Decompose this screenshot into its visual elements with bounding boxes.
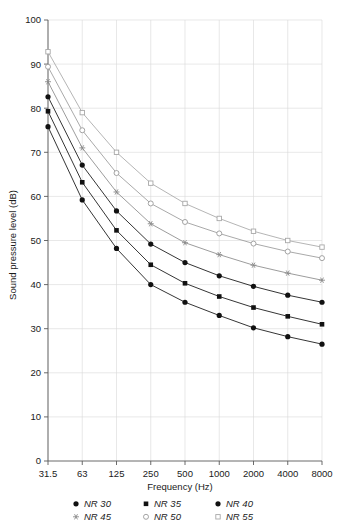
data-point-marker xyxy=(114,150,118,154)
data-point-marker xyxy=(45,124,50,129)
data-point-marker xyxy=(251,229,255,233)
y-tick-label: 90 xyxy=(30,59,41,70)
legend-item-nr-30: NR 30 xyxy=(73,498,111,509)
data-point-marker xyxy=(114,171,119,176)
data-point-marker xyxy=(285,249,290,254)
data-point-marker xyxy=(182,260,187,265)
data-point-marker xyxy=(144,514,149,519)
data-point-marker xyxy=(148,262,153,267)
data-point-marker xyxy=(286,238,290,242)
data-point-marker xyxy=(251,305,256,310)
data-point-marker xyxy=(216,515,220,519)
y-tick-label: 50 xyxy=(30,235,41,246)
legend-item-label: NR 50 xyxy=(154,511,182,522)
y-tick-label: 100 xyxy=(25,14,41,25)
data-point-marker xyxy=(148,201,153,206)
data-point-marker xyxy=(251,241,256,246)
legend-item-nr-35: NR 35 xyxy=(144,498,182,509)
data-point-marker xyxy=(217,231,222,236)
nr-curves-figure: 0102030405060708090100 31.56312525050010… xyxy=(0,0,338,531)
legend-item-nr-55: NR 55 xyxy=(216,511,254,522)
data-point-marker xyxy=(80,197,85,202)
data-point-marker xyxy=(217,294,222,299)
data-point-marker xyxy=(45,94,50,99)
data-point-marker xyxy=(73,514,79,519)
data-point-marker xyxy=(148,282,153,287)
data-point-marker xyxy=(46,109,51,114)
data-point-marker xyxy=(46,64,51,69)
x-tick-label: 4000 xyxy=(277,468,298,479)
x-tick-label: 125 xyxy=(109,468,125,479)
data-point-marker xyxy=(251,325,256,330)
data-point-marker xyxy=(182,300,187,305)
legend-item-nr-40: NR 40 xyxy=(215,498,253,509)
data-point-marker xyxy=(319,342,324,347)
y-axis-ticks: 0102030405060708090100 xyxy=(25,14,48,466)
y-tick-label: 60 xyxy=(30,191,41,202)
grid-lines xyxy=(48,20,322,461)
x-tick-label: 8000 xyxy=(311,468,332,479)
x-tick-label: 500 xyxy=(177,468,193,479)
y-tick-label: 20 xyxy=(30,367,41,378)
data-point-marker xyxy=(114,246,119,251)
legend-item-label: NR 45 xyxy=(84,511,112,522)
data-point-marker xyxy=(285,334,290,339)
legend-item-label: NR 35 xyxy=(154,498,182,509)
data-point-marker xyxy=(73,501,78,506)
legend-item-label: NR 55 xyxy=(226,511,254,522)
data-point-marker xyxy=(114,208,119,213)
y-tick-label: 80 xyxy=(30,103,41,114)
legend-item-label: NR 30 xyxy=(84,498,112,509)
x-tick-label: 2000 xyxy=(243,468,264,479)
data-point-marker xyxy=(46,50,50,54)
chart-canvas: 0102030405060708090100 31.56312525050010… xyxy=(0,0,338,531)
data-point-marker xyxy=(285,293,290,298)
data-point-marker xyxy=(80,128,85,133)
data-point-marker xyxy=(251,284,256,289)
data-point-marker xyxy=(320,245,324,249)
x-tick-label: 31.5 xyxy=(39,468,58,479)
y-tick-label: 30 xyxy=(30,323,41,334)
data-point-marker xyxy=(183,219,188,224)
data-point-marker xyxy=(215,501,220,506)
legend-item-nr-45: NR 45 xyxy=(73,511,112,522)
x-axis-ticks: 31.5631252505001000200040008000 xyxy=(39,461,333,479)
data-point-marker xyxy=(217,273,222,278)
data-point-marker xyxy=(80,162,85,167)
data-point-marker xyxy=(319,300,324,305)
y-axis-title: Sound pressure level (dB) xyxy=(7,190,18,300)
data-point-marker xyxy=(320,322,325,327)
y-tick-label: 10 xyxy=(30,411,41,422)
data-point-marker xyxy=(80,180,85,185)
data-point-marker xyxy=(148,241,153,246)
x-tick-label: 1000 xyxy=(209,468,230,479)
data-point-marker xyxy=(144,502,149,507)
data-point-marker xyxy=(320,256,325,261)
x-tick-label: 63 xyxy=(77,468,88,479)
data-point-marker xyxy=(217,313,222,318)
data-point-marker xyxy=(285,314,290,319)
data-point-marker xyxy=(183,281,188,286)
y-tick-label: 40 xyxy=(30,279,41,290)
x-axis-title: Frequency (Hz) xyxy=(147,481,212,492)
data-point-marker xyxy=(217,216,221,220)
legend-item-nr-50: NR 50 xyxy=(144,511,182,522)
data-point-marker xyxy=(80,110,84,114)
chart-legend: NR 30NR 35NR 40NR 45NR 50NR 55 xyxy=(73,498,254,522)
y-tick-label: 70 xyxy=(30,147,41,158)
data-point-marker xyxy=(183,201,187,205)
data-point-marker xyxy=(149,181,153,185)
data-point-marker xyxy=(114,228,119,233)
legend-item-label: NR 40 xyxy=(226,498,254,509)
x-tick-label: 250 xyxy=(143,468,159,479)
y-tick-label: 0 xyxy=(36,455,41,466)
